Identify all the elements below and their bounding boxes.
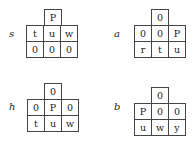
cell: u	[44, 115, 62, 132]
panel-label: s	[9, 28, 14, 39]
cell: u	[168, 41, 186, 58]
cell: u	[134, 119, 152, 136]
cell: u	[43, 25, 61, 42]
panel-label: a	[114, 28, 120, 39]
cell-top: 0	[44, 83, 62, 100]
cell: w	[60, 25, 78, 42]
cell: t	[27, 115, 45, 132]
cell: P	[134, 103, 152, 120]
cell: P	[44, 99, 62, 116]
cell: 0	[27, 99, 45, 116]
cell: r	[134, 41, 152, 58]
panel-label: b	[114, 101, 120, 112]
grid-panel-h: h 0 0 P 0 t u w	[0, 72, 98, 144]
cell: 0	[26, 41, 44, 58]
cell: 0	[61, 99, 79, 116]
cell: P	[168, 25, 186, 42]
grid-panel-s: s P t u w 0 0 0	[0, 0, 98, 72]
grid-panel-b: b 0 P 0 0 u w y	[98, 72, 196, 144]
cell: w	[61, 115, 79, 132]
cell: y	[168, 119, 186, 136]
cell: 0	[151, 25, 169, 42]
cell: 0	[151, 103, 169, 120]
cell: 0	[60, 41, 78, 58]
cell: 0	[168, 103, 186, 120]
cell-top: 0	[151, 87, 169, 104]
cell: w	[151, 119, 169, 136]
cell: t	[26, 25, 44, 42]
grid-panel-a: a 0 0 0 P r t u	[98, 0, 196, 72]
cell-top: P	[44, 9, 62, 26]
panel-label: h	[9, 101, 15, 112]
cell: 0	[134, 25, 152, 42]
cell: t	[151, 41, 169, 58]
cell: 0	[43, 41, 61, 58]
cell-top: 0	[151, 9, 169, 26]
